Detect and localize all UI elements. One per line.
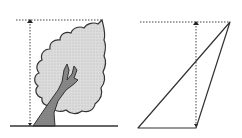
tree-crown [35, 20, 106, 114]
figure [0, 0, 242, 138]
triangle-panel [138, 21, 230, 128]
triangle-shape [138, 22, 230, 128]
tree-panel [10, 19, 118, 126]
